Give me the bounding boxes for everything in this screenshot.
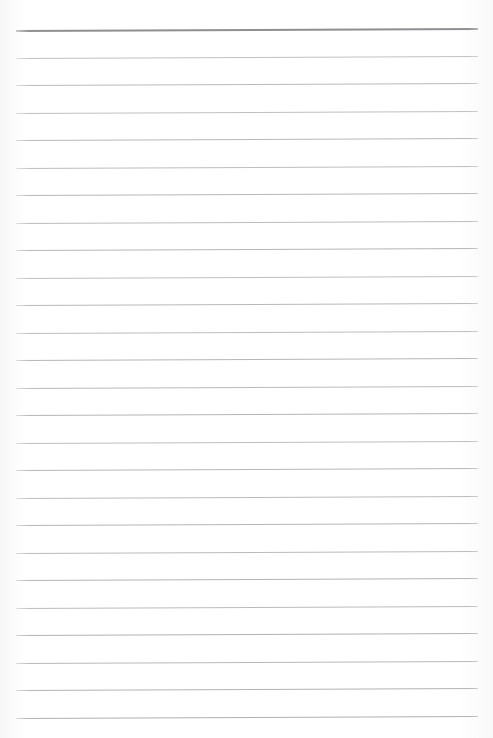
ruled-line [16, 83, 478, 86]
ruled-line [16, 193, 478, 196]
ruled-line [16, 413, 478, 416]
ruled-line [16, 28, 478, 32]
ruled-line [16, 550, 478, 553]
ruled-line [16, 275, 478, 278]
ruled-line [16, 303, 478, 306]
ruled-line [16, 385, 478, 388]
ruled-line [16, 633, 478, 636]
ruled-line [16, 605, 478, 608]
ruled-line [16, 330, 478, 333]
ruled-line [16, 55, 478, 58]
ruled-line [16, 358, 478, 361]
ruled-line [16, 165, 478, 168]
ruled-line [16, 523, 478, 526]
ruled-line [16, 578, 478, 581]
ruled-line [16, 688, 478, 691]
ruled-line [16, 468, 478, 471]
ruled-line [16, 660, 478, 663]
ruled-line [16, 440, 478, 443]
ruled-line [16, 110, 478, 113]
ruled-line-layer [0, 0, 493, 738]
ruled-line [16, 715, 478, 718]
ruled-line [16, 248, 478, 251]
lined-paper-page [0, 0, 493, 738]
ruled-line [16, 495, 478, 498]
ruled-line [16, 220, 478, 223]
ruled-line [16, 138, 478, 141]
